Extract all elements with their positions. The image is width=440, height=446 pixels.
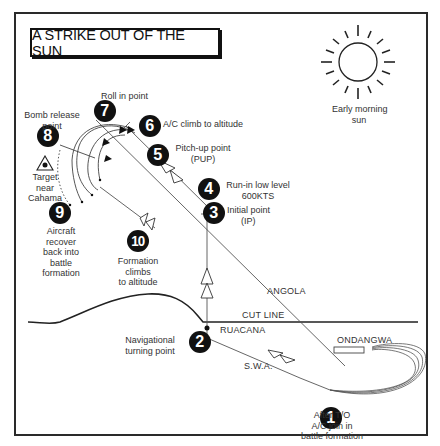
cut-line-label: CUT LINE [242,310,284,320]
target-label: Target near Cahama [23,172,67,204]
step-label-line: climbs [111,267,165,278]
step-label-line: Formation [111,256,165,267]
step-label-4: Run-in low level 600KTS [222,180,294,201]
diagram-canvas [0,0,440,446]
step-label-line: 600KTS [222,191,294,202]
target-label-line: near [23,183,67,194]
swa-label: S.W.A. [244,361,273,371]
angola-label: ANGOLA [267,286,306,296]
step-label-line: Pitch-up point [170,143,236,154]
step-number: 10 [132,230,145,252]
sun-label-line: Early morning [332,104,386,115]
ruacana-label: RUACANA [220,325,265,335]
step-number: 9 [56,202,65,224]
terrain-ridge [28,294,418,323]
step-label-5: Pitch-up point (PUP) [170,143,236,164]
step-label-9: Aircraft recover back into battle format… [38,226,84,279]
step-marker-9: 9 [49,202,71,224]
step-label-line: After T/O [297,410,367,421]
step-label-2: Navigational turning point [120,335,180,356]
step-label-3: Initial point (IP) [227,205,270,226]
step-number: 4 [205,178,214,200]
step-marker-10: 10 [127,230,149,252]
step-marker-6: 6 [139,115,161,137]
step-label-line: formation [38,268,84,279]
sun-label: Early morning sun [332,104,386,125]
step-label-line: Navigational [120,335,180,346]
step-label-1: After T/O A/C join in battle formation [297,410,367,442]
sun-icon [321,25,395,99]
step-marker-5: 5 [147,144,169,166]
step-label-line: Initial point [227,205,270,216]
step-number: 2 [196,331,205,353]
step-marker-2: 2 [189,331,211,353]
step-label-line: battle formation [297,431,367,442]
target-label-line: Target [23,172,67,183]
step-label-line: Aircraft [38,226,84,237]
step-label-line: battle [38,258,84,269]
step-marker-4: 4 [198,178,220,200]
step-label-6: A/C climb to altitude [163,119,243,130]
step-label-line: Run-in low level [222,180,294,191]
step-label-line: to altitude [111,277,165,288]
turning-point-dot [205,326,210,331]
step-label-7: Roll in point [101,91,148,102]
step-label-line: recover [38,237,84,248]
step-marker-7: 7 [94,100,116,122]
step-label-10: Formation climbs to altitude [111,256,165,288]
step-number: 6 [146,115,155,137]
diagram-title: A STRIKE OUT OF THE SUN [30,28,220,57]
target-triangle-icon [36,155,54,171]
step-label-line: back into [38,247,84,258]
sun-label-line: sun [332,115,386,126]
step-number: 3 [210,202,219,224]
step-label-line: turning point [120,346,180,357]
ondangwa-label: ONDANGWA [337,335,392,345]
ondangwa-airfield [334,347,364,353]
step-label-line: Bomb release [22,110,82,121]
step-label-line: A/C join in [297,421,367,432]
step-label-line: (PUP) [170,154,236,165]
step-number: 5 [154,144,163,166]
step-label-line: point [22,121,82,132]
step-label-line: (IP) [227,216,270,227]
step-marker-3: 3 [203,202,225,224]
step-number: 7 [101,100,110,122]
step-label-8: Bomb release point [22,110,82,131]
